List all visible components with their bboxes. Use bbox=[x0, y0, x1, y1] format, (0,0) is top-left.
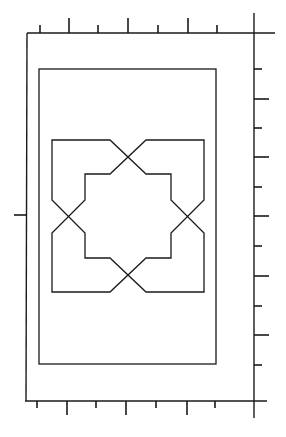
star-inner-band bbox=[52, 140, 204, 292]
left-frame-line bbox=[26, 33, 27, 401]
inner-frame bbox=[39, 69, 216, 364]
bottom-tick-marks bbox=[37, 401, 215, 415]
frame-axes bbox=[14, 13, 275, 418]
star-outer-band bbox=[52, 140, 204, 292]
geometric-pattern-diagram bbox=[0, 0, 286, 437]
interlaced-star bbox=[52, 140, 204, 292]
top-tick-marks bbox=[40, 18, 217, 33]
right-tick-marks bbox=[254, 69, 269, 365]
